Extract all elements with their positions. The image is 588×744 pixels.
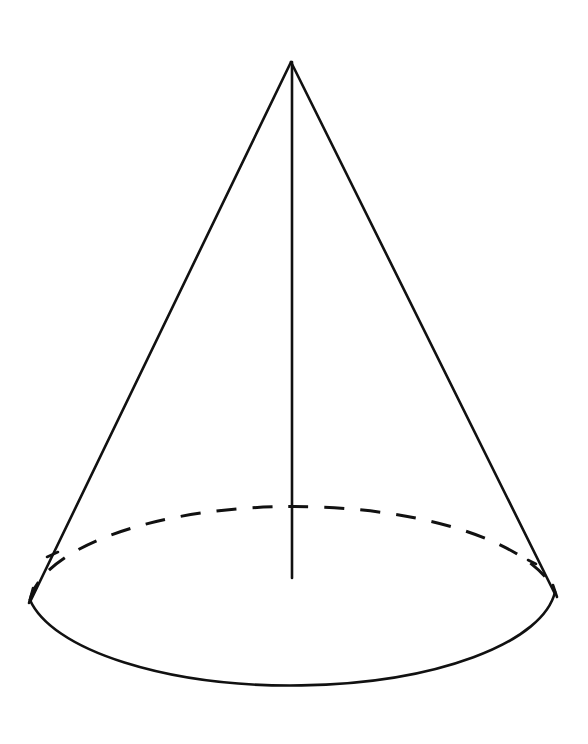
cone-diagram (0, 0, 588, 744)
cone-figure (0, 0, 588, 744)
right-slant-edge (291, 62, 555, 594)
base-ellipse-front (30, 592, 555, 685)
right-tick-mark (528, 560, 536, 564)
